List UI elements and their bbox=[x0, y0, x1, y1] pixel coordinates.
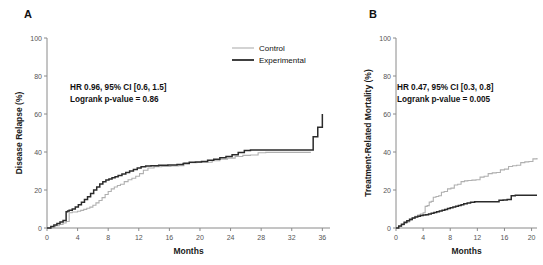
panel-a-plot: 02040608010004812162024283236MonthsDisea… bbox=[0, 0, 355, 265]
legend-experimental-label: Experimental bbox=[259, 56, 306, 65]
x-tick-label: 32 bbox=[288, 234, 296, 241]
stat-annotation: Logrank p-value = 0.86 bbox=[70, 95, 159, 104]
y-tick-label: 40 bbox=[34, 149, 42, 156]
x-tick-label: 20 bbox=[196, 234, 204, 241]
y-tick-label: 100 bbox=[30, 35, 42, 42]
x-tick-label: 12 bbox=[473, 234, 481, 241]
x-tick-label: 4 bbox=[421, 234, 425, 241]
legend-control-label: Control bbox=[259, 44, 285, 53]
x-tick-label: 4 bbox=[76, 234, 80, 241]
stat-annotation: HR 0.96, 95% CI [0.6, 1.5] bbox=[70, 83, 167, 92]
y-tick-label: 0 bbox=[38, 225, 42, 232]
y-tick-label: 100 bbox=[379, 35, 391, 42]
x-tick-label: 16 bbox=[501, 234, 509, 241]
x-axis-title: Months bbox=[451, 246, 481, 256]
y-tick-label: 40 bbox=[383, 149, 391, 156]
y-tick-label: 60 bbox=[383, 111, 391, 118]
x-tick-label: 24 bbox=[227, 234, 235, 241]
x-tick-label: 28 bbox=[257, 234, 265, 241]
y-tick-label: 20 bbox=[34, 187, 42, 194]
y-axis-title: Treatment-Related Mortality (%) bbox=[363, 69, 373, 197]
y-tick-label: 20 bbox=[383, 187, 391, 194]
x-tick-label: 8 bbox=[448, 234, 452, 241]
stat-annotation: HR 0.47, 95% CI [0.3, 0.8] bbox=[397, 83, 494, 92]
y-axis-title: Disease Relapse (%) bbox=[14, 91, 24, 174]
x-axis-title: Months bbox=[173, 246, 203, 256]
x-tick-label: 12 bbox=[135, 234, 143, 241]
y-tick-label: 0 bbox=[387, 225, 391, 232]
survival-figure: A 02040608010004812162024283236MonthsDis… bbox=[0, 0, 543, 265]
x-tick-label: 8 bbox=[106, 234, 110, 241]
x-tick-label: 36 bbox=[318, 234, 326, 241]
curve-experimental bbox=[47, 114, 322, 228]
curve-experimental bbox=[396, 195, 537, 228]
y-tick-label: 80 bbox=[34, 73, 42, 80]
y-tick-label: 60 bbox=[34, 111, 42, 118]
x-tick-label: 0 bbox=[45, 234, 49, 241]
panel-a: A 02040608010004812162024283236MonthsDis… bbox=[0, 0, 355, 265]
panel-b-plot: 020406080100048121620MonthsTreatment-Rel… bbox=[355, 0, 543, 265]
y-tick-label: 80 bbox=[383, 73, 391, 80]
x-tick-label: 20 bbox=[528, 234, 536, 241]
panel-b: B 020406080100048121620MonthsTreatment-R… bbox=[355, 0, 543, 265]
x-tick-label: 0 bbox=[394, 234, 398, 241]
x-tick-label: 16 bbox=[165, 234, 173, 241]
stat-annotation: Logrank p-value = 0.005 bbox=[397, 95, 491, 104]
curve-control bbox=[47, 152, 311, 228]
